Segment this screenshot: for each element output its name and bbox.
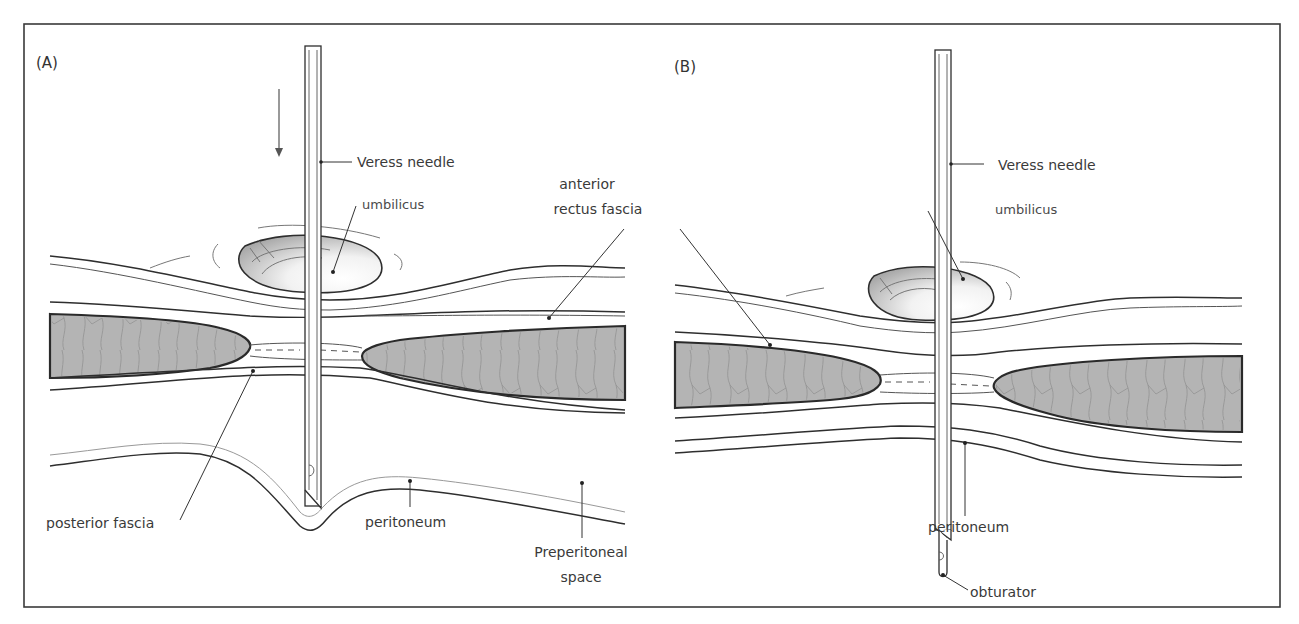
veress-needle-diagram: (A) (0, 0, 1299, 624)
label-umbilicus-a: umbilicus (362, 197, 424, 212)
label-preperitoneal-line1: Preperitoneal (534, 544, 627, 560)
veress-needle-a (305, 46, 321, 508)
label-anterior-rectus-fascia-line1: anterior (559, 176, 615, 192)
obturator-b (939, 530, 947, 577)
label-posterior-fascia: posterior fascia (46, 515, 154, 531)
label-veress-needle-a: Veress needle (357, 154, 455, 170)
label-veress-needle-b: Veress needle (998, 157, 1096, 173)
label-preperitoneal-line2: space (560, 569, 601, 585)
rectus-muscle-left-b (675, 342, 881, 408)
panel-b-tag: (B) (674, 58, 696, 76)
panel-a-tag: (A) (36, 54, 58, 72)
umbilicus-b (786, 262, 1020, 320)
figure-frame (24, 24, 1280, 607)
rectus-muscle-right-b (994, 356, 1242, 432)
rectus-muscle-right-a (362, 326, 625, 400)
label-peritoneum-b: peritoneum (928, 519, 1009, 535)
label-anterior-rectus-fascia-line2: rectus fascia (554, 201, 643, 217)
label-peritoneum-a: peritoneum (365, 514, 446, 530)
panel-a: (A) (36, 46, 772, 585)
label-umbilicus-b: umbilicus (995, 202, 1057, 217)
panel-b: (B) (674, 50, 1242, 600)
label-obturator: obturator (970, 584, 1036, 600)
down-arrow-icon (275, 89, 283, 157)
umbilicus-a (150, 225, 402, 292)
veress-needle-b (935, 50, 951, 540)
